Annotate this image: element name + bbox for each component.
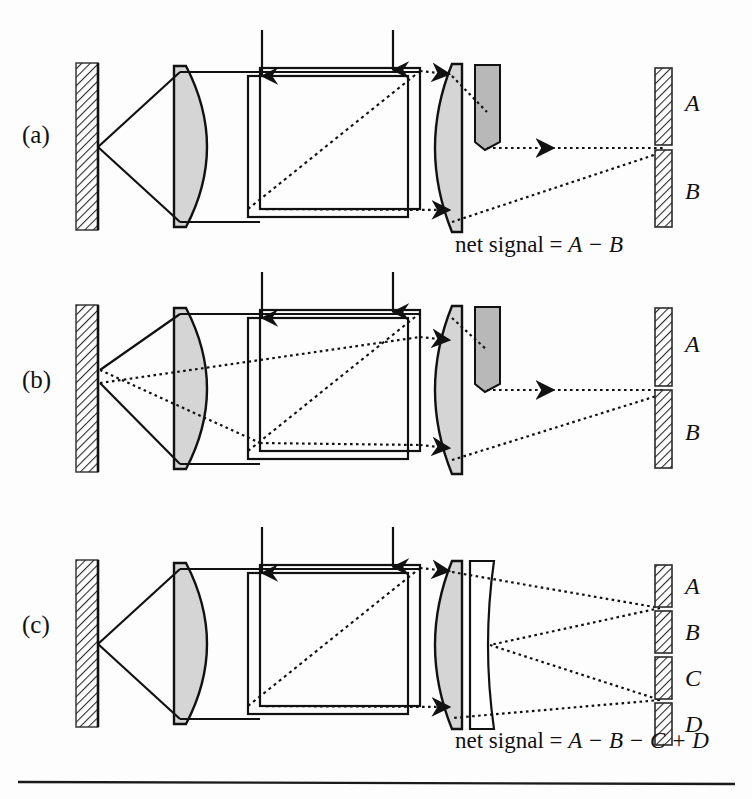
detector-segment-a <box>655 308 672 386</box>
detector-label-c: C <box>685 665 702 691</box>
panel-b: (b) <box>22 272 700 474</box>
objective-lens-c <box>174 563 207 724</box>
bi-cell-detector-b: A B <box>655 308 700 468</box>
knife-edge-prism-a <box>475 65 500 150</box>
collector-lens-b <box>435 306 462 474</box>
objective-lens-a <box>174 66 207 227</box>
detector-label-a: A <box>683 90 700 116</box>
beam-splitter-cube-c <box>248 565 420 714</box>
beam-splitter-cube-a <box>248 68 420 217</box>
detector-label-a: A <box>683 331 700 357</box>
caption-rule <box>18 782 735 784</box>
detector-segment-b <box>655 390 672 468</box>
beam-splitter-cube-b <box>248 310 420 459</box>
detector-segment-b <box>655 611 672 653</box>
mirror-a <box>76 63 98 230</box>
detector-segment-b <box>655 150 672 227</box>
optical-diagram-svg: (a) <box>0 0 752 799</box>
net-signal-expression-a: A − B <box>566 232 623 257</box>
collector-lens-a <box>435 64 462 232</box>
svg-text:net signal = A − B: net signal = A − B <box>455 232 623 257</box>
net-signal-a: net signal = A − B <box>455 232 623 257</box>
knife-edge-prism-b <box>475 307 500 392</box>
detector-label-b: B <box>685 619 700 645</box>
detector-label-b: B <box>685 178 700 204</box>
net-signal-prefix-c: net signal = <box>455 728 568 753</box>
panel-c: (c) <box>22 527 709 753</box>
panel-a-label: (a) <box>22 121 50 149</box>
svg-text:net signal = A − B − C + D: net signal = A − B − C + D <box>455 728 709 753</box>
detector-segment-a <box>655 68 672 145</box>
detector-segment-c <box>655 657 672 699</box>
objective-lens-b <box>174 308 207 469</box>
mirror-c <box>76 560 98 727</box>
panel-c-label: (c) <box>22 611 50 639</box>
collector-lens-c <box>435 561 462 729</box>
figure-root: (a) <box>0 0 752 799</box>
net-signal-c: net signal = A − B − C + D <box>455 728 709 753</box>
mirror-b <box>76 305 98 472</box>
net-signal-prefix-a: net signal = <box>455 232 568 257</box>
detector-label-a: A <box>683 573 700 599</box>
detector-label-b: B <box>685 419 700 445</box>
panel-b-label: (b) <box>22 366 51 394</box>
net-signal-expression-c: A − B − C + D <box>566 728 709 753</box>
panel-a: (a) <box>22 30 700 257</box>
incoming-beam-arrows-b <box>262 272 393 318</box>
quadrant-detector-c: A B C D <box>655 565 702 745</box>
detector-segment-a <box>655 565 672 607</box>
